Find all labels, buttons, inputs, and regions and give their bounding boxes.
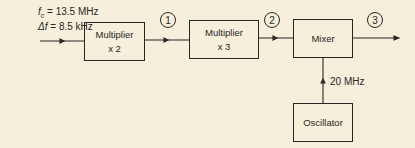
node-2-marker: 2	[264, 12, 280, 28]
multiplier-x2-block: Multiplier x 2	[84, 22, 145, 61]
multiplier-x3-block: Multiplier x 3	[189, 20, 259, 59]
mixer-block: Mixer	[293, 19, 353, 58]
oscillator-block: Oscillator	[293, 103, 353, 142]
node-1-marker: 1	[160, 12, 176, 28]
oscillator-frequency-label: 20 MHz	[330, 76, 364, 87]
carrier-frequency-label: fc = 13.5 MHz	[38, 6, 98, 19]
node-3-marker: 3	[367, 12, 383, 28]
